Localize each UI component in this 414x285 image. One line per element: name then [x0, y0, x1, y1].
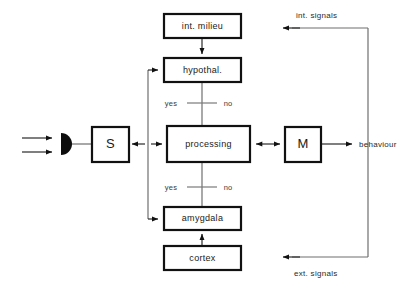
box-sensor-s[interactable]: S: [92, 127, 129, 162]
box-sensor-s-label: S: [106, 136, 115, 151]
hypothal-decision-connectors: [187, 82, 217, 126]
box-cortex-label: cortex: [189, 253, 216, 263]
diagram-svg: int. milieu hypothal. S processing M amy…: [0, 0, 414, 285]
diagram-canvas: int. milieu hypothal. S processing M amy…: [0, 0, 414, 285]
amygdala-yes-label: yes: [165, 183, 177, 192]
ext-signals-label: ext. signals: [294, 269, 338, 278]
behaviour-label: behaviour: [359, 140, 397, 149]
box-motor-m[interactable]: M: [285, 127, 321, 162]
box-hypothal-label: hypothal.: [183, 65, 222, 75]
hypothal-no-label: no: [224, 99, 233, 108]
box-amygdala[interactable]: amygdala: [164, 207, 241, 230]
amygdala-decision-connectors: [187, 162, 217, 207]
box-hypothal[interactable]: hypothal.: [164, 58, 241, 82]
left-branch-connectors: [132, 70, 162, 219]
box-processing-label: processing: [185, 139, 232, 149]
receptor-halfdisc-icon: [61, 133, 72, 155]
int-signals-label: int. signals: [296, 11, 337, 20]
box-cortex[interactable]: cortex: [164, 246, 241, 270]
box-int-milieu[interactable]: int. milieu: [164, 14, 241, 38]
amygdala-no-label: no: [224, 183, 233, 192]
hypothal-yes-label: yes: [165, 99, 177, 108]
input-arrows-group: [22, 138, 52, 152]
box-int-milieu-label: int. milieu: [182, 21, 223, 31]
box-amygdala-label: amygdala: [182, 213, 223, 223]
box-processing[interactable]: processing: [167, 126, 250, 162]
box-motor-m-label: M: [297, 136, 308, 151]
